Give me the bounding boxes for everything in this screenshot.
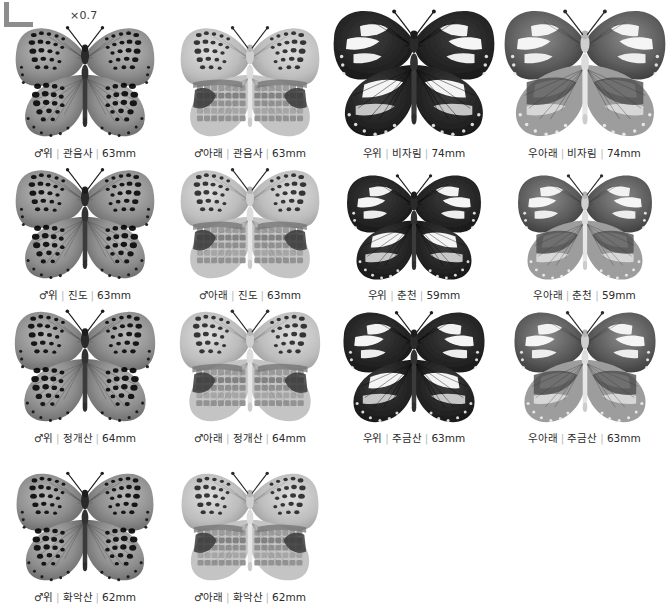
specimen-figure — [328, 0, 501, 145]
size-label: 59mm — [426, 289, 460, 301]
locality-label: 관음사 — [63, 147, 93, 159]
size-label: 59mm — [602, 289, 636, 301]
caption-separator: | — [58, 289, 68, 301]
size-label: 63mm — [102, 147, 136, 159]
specimen-figure — [174, 13, 326, 146]
specimen-cell[interactable]: ♂위|관음사|63mm — [0, 0, 170, 164]
caption-separator: | — [53, 147, 63, 159]
locality-label: 진도 — [68, 289, 88, 301]
specimen-figure — [9, 13, 161, 146]
specimen-cell[interactable]: ♂아래|화악산|62mm — [170, 449, 330, 608]
view-label: 위 — [43, 591, 53, 603]
locality-label: 춘천 — [572, 289, 592, 301]
sex-symbol: ♂ — [194, 432, 203, 444]
caption-separator: | — [93, 147, 103, 159]
sex-symbol: 우 — [528, 432, 538, 444]
butterfly-specimen-image — [9, 20, 161, 145]
caption-separator: | — [223, 432, 233, 444]
caption-separator: | — [88, 289, 98, 301]
butterfly-specimen-image — [338, 305, 490, 430]
specimen-caption: 우아래|비자림|74mm — [528, 145, 640, 164]
locality-label: 비자림 — [567, 147, 597, 159]
specimen-cell[interactable]: ♂아래|진도|63mm — [170, 164, 330, 306]
butterfly-specimen-image — [328, 3, 501, 146]
butterfly-specimen-image — [10, 466, 160, 590]
sex-symbol: ♂ — [194, 591, 203, 603]
butterfly-specimen-image — [513, 169, 657, 288]
specimen-cell[interactable]: ♂아래|정개산|64mm — [170, 306, 330, 449]
locality-label: 춘천 — [397, 289, 417, 301]
caption-separator: | — [597, 147, 607, 159]
locality-label: 주금산 — [392, 432, 422, 444]
specimen-cell[interactable]: ♂위|정개산|64mm — [0, 306, 170, 449]
view-label: 위 — [48, 289, 58, 301]
caption-separator: | — [563, 289, 573, 301]
specimen-cell[interactable]: ♂아래|관음사|63mm — [170, 0, 330, 164]
caption-separator: | — [382, 147, 392, 159]
locality-label: 주금산 — [567, 432, 597, 444]
specimen-cell[interactable]: 우아래|춘천|59mm — [498, 164, 671, 306]
specimen-cell[interactable]: 우위|비자림|74mm — [330, 0, 498, 164]
specimen-plate-grid: ♂위|관음사|63mm♂아래|관음사|63mm우위|비자림|74mm우아래|비자… — [0, 0, 671, 608]
specimen-cell[interactable]: 우위|춘천|59mm — [330, 164, 498, 306]
specimen-caption: 우아래|춘천|59mm — [533, 287, 635, 306]
specimen-cell[interactable]: 우아래|주금산|63mm — [498, 306, 671, 449]
specimen-caption: ♂아래|화악산|62mm — [194, 589, 306, 608]
sex-symbol: 우 — [533, 289, 543, 301]
specimen-figure — [342, 169, 486, 288]
butterfly-specimen-image — [498, 3, 671, 146]
view-label: 아래 — [538, 432, 558, 444]
view-label: 위 — [372, 147, 382, 159]
size-label: 74mm — [607, 147, 641, 159]
sex-symbol: ♂ — [39, 289, 48, 301]
sex-symbol: ♂ — [34, 591, 43, 603]
sex-symbol: ♂ — [194, 147, 203, 159]
view-label: 위 — [372, 432, 382, 444]
specimen-caption: 우위|춘천|59mm — [368, 287, 460, 306]
locality-label: 화악산 — [63, 591, 93, 603]
specimen-figure — [498, 0, 671, 145]
caption-separator: | — [263, 591, 273, 603]
specimen-cell[interactable]: ♂위|진도|63mm — [0, 164, 170, 306]
view-label: 아래 — [203, 432, 223, 444]
view-label: 아래 — [538, 147, 558, 159]
view-label: 아래 — [543, 289, 563, 301]
caption-separator: | — [258, 289, 268, 301]
caption-separator: | — [387, 289, 397, 301]
specimen-cell[interactable]: 우아래|비자림|74mm — [498, 0, 671, 164]
specimen-cell[interactable]: 우위|주금산|63mm — [330, 306, 498, 449]
specimen-figure — [8, 304, 162, 431]
size-label: 63mm — [97, 289, 131, 301]
caption-separator: | — [223, 147, 233, 159]
specimen-caption: ♂위|정개산|64mm — [34, 430, 136, 449]
specimen-caption: 우위|주금산|63mm — [363, 430, 465, 449]
sex-symbol: ♂ — [34, 432, 43, 444]
specimen-figure — [173, 304, 327, 431]
butterfly-specimen-image — [9, 162, 161, 287]
caption-separator: | — [53, 432, 63, 444]
specimen-figure — [509, 305, 661, 430]
size-label: 74mm — [431, 147, 465, 159]
butterfly-specimen-image — [509, 305, 661, 430]
caption-separator: | — [228, 289, 238, 301]
size-label: 63mm — [607, 432, 641, 444]
locality-label: 정개산 — [63, 432, 93, 444]
caption-separator: | — [263, 147, 273, 159]
caption-separator: | — [263, 432, 273, 444]
specimen-caption: ♂아래|정개산|64mm — [194, 430, 306, 449]
size-label: 64mm — [102, 432, 136, 444]
sex-symbol: 우 — [363, 432, 373, 444]
caption-separator: | — [53, 591, 63, 603]
sex-symbol: 우 — [368, 289, 378, 301]
locality-label: 비자림 — [392, 147, 422, 159]
view-label: 아래 — [203, 591, 223, 603]
caption-separator: | — [592, 289, 602, 301]
size-label: 63mm — [272, 147, 306, 159]
size-label: 63mm — [431, 432, 465, 444]
specimen-caption: ♂위|화악산|62mm — [34, 589, 136, 608]
specimen-cell[interactable]: ♂위|화악산|62mm — [0, 449, 170, 608]
size-label: 62mm — [102, 591, 136, 603]
caption-separator: | — [93, 432, 103, 444]
specimen-figure — [9, 162, 161, 287]
caption-separator: | — [558, 147, 568, 159]
